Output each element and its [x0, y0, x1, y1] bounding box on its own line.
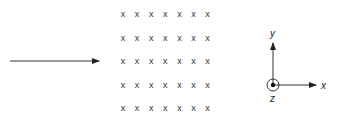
- field-into-page-icon: x: [135, 33, 140, 43]
- field-into-page-icon: x: [163, 80, 168, 90]
- field-into-page-icon: x: [191, 56, 196, 66]
- field-into-page-icon: x: [205, 56, 210, 66]
- field-into-page-icon: x: [135, 103, 140, 113]
- field-into-page-icon: x: [205, 9, 210, 19]
- field-into-page-icon: x: [121, 103, 126, 113]
- field-into-page-icon: x: [191, 103, 196, 113]
- x-axis-label: x: [320, 80, 327, 91]
- field-into-page-icon: x: [163, 33, 168, 43]
- field-into-page-icon: x: [191, 33, 196, 43]
- field-into-page-icon: x: [205, 33, 210, 43]
- field-into-page-icon: x: [149, 80, 154, 90]
- field-into-page-icon: x: [149, 56, 154, 66]
- field-into-page-icon: x: [149, 103, 154, 113]
- field-into-page-icon: x: [135, 9, 140, 19]
- field-into-page-icon: x: [149, 9, 154, 19]
- field-into-page-icon: x: [177, 80, 182, 90]
- field-into-page-icon: x: [135, 80, 140, 90]
- field-into-page-icon: x: [135, 56, 140, 66]
- field-into-page-icon: x: [121, 80, 126, 90]
- field-into-page-icon: x: [163, 103, 168, 113]
- field-into-page-icon: x: [121, 33, 126, 43]
- field-into-page-icon: x: [163, 56, 168, 66]
- field-into-page-icon: x: [191, 9, 196, 19]
- field-into-page-icon: x: [191, 80, 196, 90]
- magnetic-field-grid: xxxxxxxxxxxxxxxxxxxxxxxxxxxxxxxxxxx: [121, 9, 211, 113]
- field-into-page-icon: x: [163, 9, 168, 19]
- field-into-page-icon: x: [177, 33, 182, 43]
- field-into-page-icon: x: [177, 56, 182, 66]
- field-into-page-icon: x: [121, 9, 126, 19]
- z-axis-dot: [271, 83, 275, 87]
- z-axis-label: z: [269, 93, 275, 104]
- field-into-page-icon: x: [177, 103, 182, 113]
- field-into-page-icon: x: [149, 33, 154, 43]
- field-into-page-icon: x: [205, 103, 210, 113]
- coordinate-axes: y x z: [267, 28, 327, 104]
- field-into-page-icon: x: [205, 80, 210, 90]
- field-into-page-icon: x: [121, 56, 126, 66]
- y-axis-label: y: [269, 28, 276, 39]
- field-into-page-icon: x: [177, 9, 182, 19]
- diagram-canvas: xxxxxxxxxxxxxxxxxxxxxxxxxxxxxxxxxxx y x …: [0, 0, 337, 117]
